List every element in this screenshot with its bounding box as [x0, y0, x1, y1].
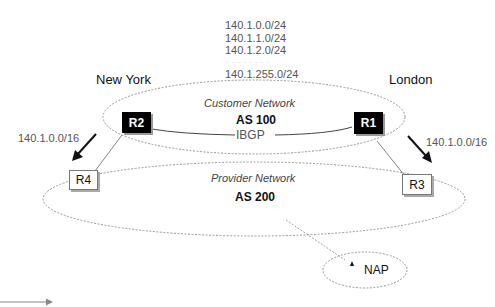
right-announcement-label: 140.1.0.0/16: [426, 137, 487, 148]
legend-arrowhead-icon: [46, 299, 53, 306]
left-announcement-arrow: [77, 134, 96, 155]
customer-network-label: Customer Network: [204, 98, 295, 109]
prefix-2: 140.1.1.0/24: [225, 33, 286, 44]
prefix-ellipsis: . . . . . . . .: [226, 57, 270, 64]
nap-label: NAP: [364, 264, 389, 276]
prefix-1: 140.1.0.0/24: [225, 20, 286, 31]
customer-as-label: AS 100: [236, 114, 276, 126]
left-announcement-label: 140.1.0.0/16: [18, 133, 79, 144]
city-new-york: New York: [96, 73, 151, 86]
nap-triangle-icon: [350, 261, 354, 266]
provider-as-label: AS 200: [235, 191, 275, 203]
provider-nap-link: [286, 220, 345, 260]
provider-network-label: Provider Network: [211, 173, 295, 184]
router-r4[interactable]: R4: [69, 170, 98, 190]
right-announcement-arrow: [408, 136, 426, 156]
router-r3[interactable]: R3: [402, 174, 432, 195]
prefix-3: 140.1.2.0/24: [225, 45, 286, 56]
ibgp-label: IBGP: [235, 129, 266, 141]
city-london: London: [389, 73, 432, 86]
prefix-last: 140.1.255.0/24: [225, 69, 298, 80]
router-r1[interactable]: R1: [354, 112, 383, 134]
router-r2[interactable]: R2: [122, 112, 151, 133]
r2-r4-link: [95, 135, 122, 171]
